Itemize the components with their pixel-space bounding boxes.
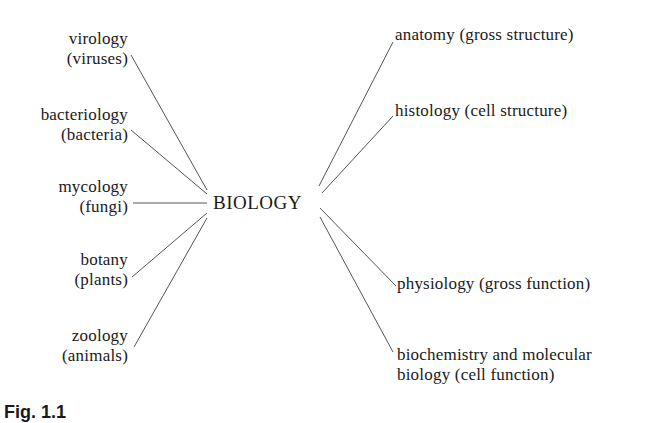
branch-title: bacteriology xyxy=(41,105,128,125)
branch-mycology: mycology (fungi) xyxy=(58,177,128,217)
line-botany xyxy=(132,213,207,277)
branch-title: histology (cell structure) xyxy=(395,101,567,121)
branch-title: mycology xyxy=(58,177,128,197)
branch-bacteriology: bacteriology (bacteria) xyxy=(41,105,128,145)
branch-biochemistry: biochemistry and molecular biology (cell… xyxy=(397,345,592,385)
line-histology xyxy=(322,116,393,193)
center-node-biology: BIOLOGY xyxy=(213,192,302,214)
branch-title: biochemistry and molecular xyxy=(397,345,592,365)
branch-anatomy: anatomy (gross structure) xyxy=(395,25,574,45)
line-physiology xyxy=(320,208,396,286)
branch-botany: botany (plants) xyxy=(74,250,128,290)
branch-virology: virology (viruses) xyxy=(67,29,128,69)
line-virology xyxy=(131,55,207,190)
line-anatomy xyxy=(319,42,393,186)
branch-title: zoology xyxy=(62,326,128,346)
line-bacteriology xyxy=(131,130,207,194)
branch-subtitle: (bacteria) xyxy=(41,125,128,145)
branch-zoology: zoology (animals) xyxy=(62,326,128,366)
branch-subtitle: (viruses) xyxy=(67,49,128,69)
branch-physiology: physiology (gross function) xyxy=(397,274,590,294)
branch-title: physiology (gross function) xyxy=(397,274,590,294)
branch-subtitle: biology (cell function) xyxy=(397,365,592,385)
branch-subtitle: (animals) xyxy=(62,346,128,366)
branch-subtitle: (fungi) xyxy=(58,197,128,217)
branch-title: anatomy (gross structure) xyxy=(395,25,574,45)
branch-subtitle: (plants) xyxy=(74,270,128,290)
branch-title: botany xyxy=(74,250,128,270)
line-zoology xyxy=(134,218,207,347)
figure-caption: Fig. 1.1 xyxy=(4,402,66,423)
line-biochemistry xyxy=(320,217,393,352)
branch-title: virology xyxy=(67,29,128,49)
branch-histology: histology (cell structure) xyxy=(395,101,567,121)
